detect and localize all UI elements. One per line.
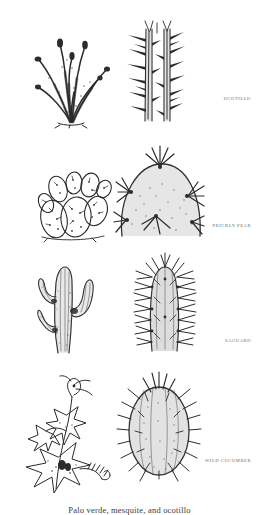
plate-row-saguaro: SAGUARO	[0, 245, 259, 363]
plate-row-wild-cucumber: WILD CUCUMBER	[0, 363, 259, 513]
plate-label-saguaro: SAGUARO	[225, 338, 251, 343]
plate-row-prickly-pear: PRICKLY PEAR	[0, 130, 259, 245]
prickly-pear-pad-detail	[116, 144, 204, 236]
wild-cucumber-habit-drawing	[22, 371, 122, 495]
prickly-pear-habit-drawing	[28, 155, 120, 243]
ocotillo-habit-drawing	[24, 22, 116, 128]
plate-label-prickly-pear: PRICKLY PEAR	[212, 223, 251, 228]
ocotillo-stem-detail	[124, 27, 186, 123]
saguaro-habit-drawing	[34, 253, 108, 355]
plate-label-wild-cucumber: WILD CUCUMBER	[205, 458, 251, 463]
plate-label-ocotillo: OCOTILLO	[224, 96, 251, 101]
plate-caption: Palo verde, mesquite, and ocotillo	[0, 505, 259, 515]
plate-row-ocotillo: OCOTILLO	[0, 0, 259, 130]
wild-cucumber-fruit-detail	[118, 373, 200, 485]
saguaro-stem-detail	[134, 255, 196, 351]
